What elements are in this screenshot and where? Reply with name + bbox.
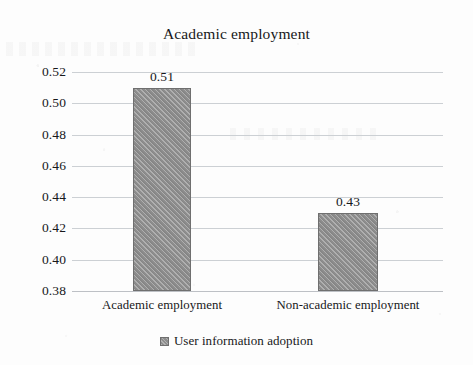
gridline (72, 166, 443, 167)
y-axis: 0.520.500.480.460.440.420.400.38 (18, 72, 66, 291)
gridline (72, 291, 443, 292)
y-axis-tick-label: 0.40 (20, 252, 66, 268)
bar (318, 213, 378, 291)
y-axis-tick-label: 0.42 (20, 220, 66, 236)
scan-artifact-top (6, 42, 196, 56)
y-axis-tick-label: 0.44 (20, 189, 66, 205)
legend: User information adoption (0, 333, 473, 349)
gridline (72, 103, 443, 104)
plot-area (72, 72, 443, 291)
legend-label: User information adoption (174, 333, 313, 349)
gridline (72, 197, 443, 198)
y-axis-tick-label: 0.46 (20, 158, 66, 174)
bar-value-label: 0.51 (150, 69, 174, 85)
bar (133, 88, 191, 291)
chart-title: Academic employment (0, 25, 473, 43)
chart-page: Academic employment 0.520.500.480.460.44… (0, 0, 473, 365)
y-axis-tick-label: 0.50 (20, 95, 66, 111)
gridline (72, 260, 443, 261)
x-axis-category-label: Non-academic employment (277, 298, 420, 313)
y-axis-tick-label: 0.48 (20, 127, 66, 143)
gridline (72, 72, 443, 73)
x-axis-category-label: Academic employment (102, 298, 222, 313)
gridline (72, 135, 443, 136)
y-axis-tick-label: 0.38 (20, 283, 66, 299)
gridline (72, 228, 443, 229)
y-axis-tick-label: 0.52 (20, 64, 66, 80)
legend-swatch (160, 337, 169, 346)
bar-value-label: 0.43 (336, 194, 360, 210)
